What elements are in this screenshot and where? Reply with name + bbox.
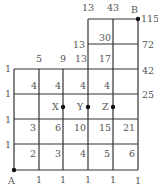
path-count-r3-17: 17 — [99, 53, 111, 64]
path-count-top-43: 43 — [107, 2, 119, 13]
path-count-r6-10: 10 — [74, 122, 86, 133]
point-labels: A B X Y Z — [7, 4, 138, 186]
label-y: Y — [76, 101, 84, 112]
label-x: X — [52, 101, 59, 112]
path-count-r4-1: 1 — [5, 88, 11, 99]
path-count-r6-6: 6 — [55, 122, 61, 133]
point-x — [61, 105, 65, 109]
path-count-r7-4: 4 — [80, 148, 86, 159]
path-count-top-13a: 13 — [82, 2, 94, 13]
path-count-r2-30: 30 — [99, 32, 111, 43]
path-count-r4-25: 25 — [142, 89, 154, 100]
path-count-r3-42: 42 — [142, 65, 154, 76]
path-count-r7-6: 6 — [129, 148, 135, 159]
point-b — [136, 17, 140, 21]
grid-svg: A B X Y Z 134311530137259131714244441253… — [0, 0, 158, 191]
point-y — [86, 105, 90, 109]
point-a — [12, 168, 16, 172]
label-z: Z — [102, 101, 109, 112]
path-count-b-1e: 1 — [135, 175, 141, 186]
path-count-r3-5: 5 — [36, 53, 42, 64]
path-count-r6-21: 21 — [123, 122, 135, 133]
path-count-r4-4b: 4 — [55, 80, 61, 91]
path-count-r4-4c: 4 — [80, 80, 86, 91]
path-count-r2-13: 13 — [73, 39, 85, 50]
path-count-r7-5: 5 — [104, 148, 110, 159]
path-count-b-1d: 1 — [110, 174, 116, 185]
path-count-r6-1: 1 — [5, 114, 11, 125]
path-count-b-1c: 1 — [85, 174, 91, 185]
grid-path-diagram: A B X Y Z 134311530137259131714244441253… — [0, 0, 158, 191]
path-count-r7-1: 1 — [5, 139, 11, 150]
path-count-r6-3: 3 — [30, 122, 36, 133]
path-count-r1-115: 115 — [141, 13, 158, 24]
path-count-r3-13: 13 — [75, 53, 87, 64]
label-b: B — [131, 4, 138, 15]
path-count-r4-4d: 4 — [104, 80, 110, 91]
path-count-r7-2: 2 — [30, 148, 36, 159]
point-z — [111, 105, 115, 109]
path-count-b-1a: 1 — [36, 174, 42, 185]
path-count-b-1b: 1 — [60, 174, 66, 185]
path-count-r3-9: 9 — [60, 53, 66, 64]
path-count-r6-15: 15 — [99, 122, 111, 133]
path-count-r7-3: 3 — [55, 148, 61, 159]
path-count-r3-1: 1 — [5, 63, 11, 74]
path-count-r4-4a: 4 — [31, 80, 37, 91]
path-count-r2-72: 72 — [142, 39, 154, 50]
label-a: A — [7, 175, 15, 186]
